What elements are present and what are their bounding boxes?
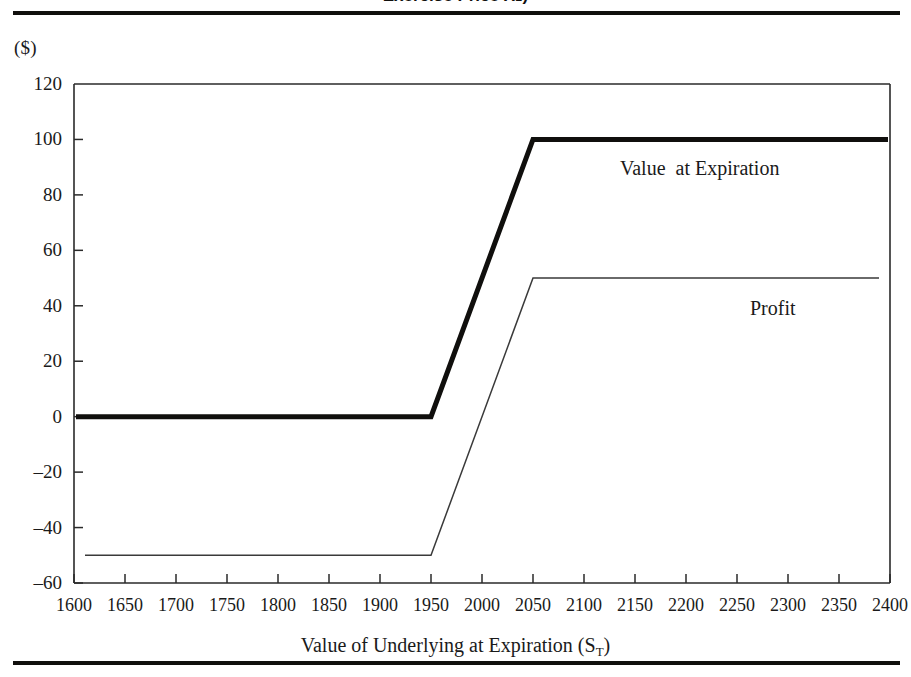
x-axis-title-main: Value of Underlying at Expiration (S [301,634,596,656]
series-label-value-at-expiration: Value at Expiration [620,157,779,180]
series-label-profit: Profit [750,297,796,320]
y-tick-label: 40 [4,296,62,315]
y-axis-ticks [74,139,83,583]
x-tick-label: 2400 [858,596,911,614]
payoff-chart [0,0,911,677]
x-axis-title-subscript: T [596,644,604,659]
y-tick-label: 80 [4,185,62,204]
y-tick-label: 120 [4,74,62,93]
x-axis-title: Value of Underlying at Expiration (ST) [0,634,911,657]
y-tick-label: –40 [4,518,62,537]
x-axis-title-close: ) [604,634,611,656]
y-tick-label: –60 [4,573,62,592]
figure-bottom-rule [13,661,900,665]
y-tick-label: 0 [4,407,62,426]
x-axis-ticks [74,574,890,583]
y-tick-label: 60 [4,240,62,259]
y-tick-label: 20 [4,351,62,370]
y-tick-label: 100 [4,129,62,148]
y-tick-label: –20 [4,462,62,481]
